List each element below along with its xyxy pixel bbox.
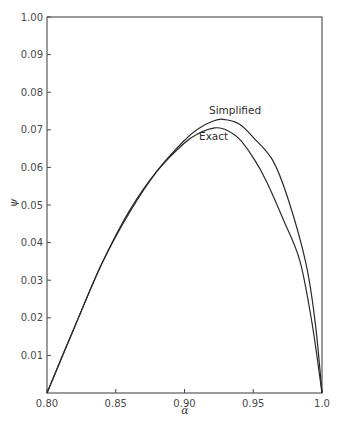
- y-tick-label: 0.03: [21, 275, 43, 286]
- y-tick-label: 0.06: [21, 162, 43, 173]
- y-tick-label: 1.00: [21, 12, 43, 23]
- x-tick-label: 0.95: [242, 398, 264, 409]
- y-tick-label: 0.05: [21, 200, 43, 211]
- exact-curve: [47, 128, 322, 393]
- y-tick-label: 0.04: [21, 237, 43, 248]
- x-tick-label: 0.85: [105, 398, 127, 409]
- exact-label: Exact: [199, 130, 228, 142]
- y-tick-label: 0.09: [21, 49, 43, 60]
- y-axis-title: ψ: [7, 198, 20, 207]
- y-tick-label: 0.07: [21, 124, 43, 135]
- y-tick-label: 0.01: [21, 350, 43, 361]
- simplified-label: Simplified: [209, 104, 261, 116]
- y-tick-label: 0.08: [21, 87, 43, 98]
- plot-frame: [47, 17, 322, 393]
- simplified-curve: [47, 119, 322, 393]
- x-axis-title: α: [181, 404, 189, 417]
- y-tick-label: 0.02: [21, 312, 43, 323]
- x-tick-label: 1.0: [314, 398, 330, 409]
- x-tick-label: 0.80: [36, 398, 58, 409]
- line-chart: 0.010.020.030.040.050.060.070.080.091.00…: [0, 0, 339, 425]
